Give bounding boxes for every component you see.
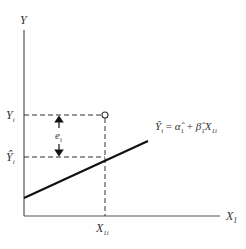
- observed-point: [102, 112, 108, 118]
- regression-line: [24, 141, 148, 198]
- regression-diagram: Y X1 ei Yi Ŷi X1i Ŷi = α̂1 + β̂1X1i: [0, 0, 246, 249]
- fitted-y-label: Ŷi: [6, 150, 15, 166]
- regression-equation: Ŷi = α̂1 + β̂1X1i: [155, 120, 217, 135]
- y-axis-label: Y: [20, 13, 28, 27]
- x-axis-label: X1: [225, 209, 237, 225]
- residual-label: ei: [55, 129, 62, 144]
- observed-y-label: Yi: [6, 108, 15, 124]
- x-value-label: X1i: [95, 221, 109, 237]
